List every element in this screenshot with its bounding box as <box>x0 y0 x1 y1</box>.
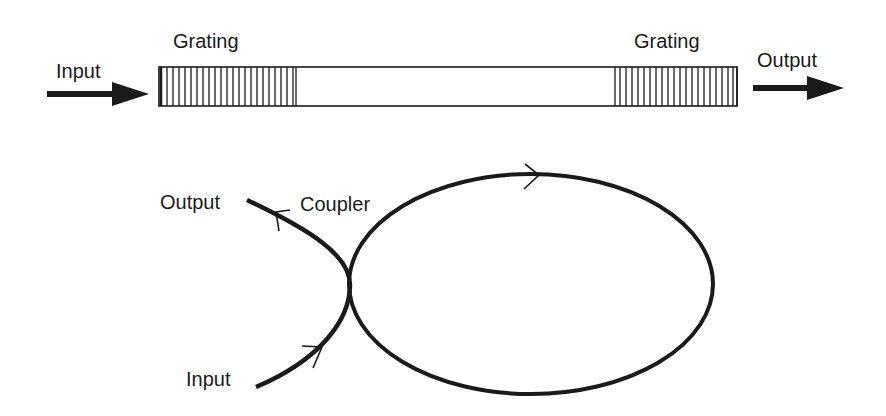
fiber-grating-diagram: Input Grating Grating <box>47 30 844 106</box>
ring-input-label: Input <box>186 368 231 390</box>
ring-direction-arrow-icon <box>524 164 539 189</box>
grating-left <box>161 67 296 106</box>
coupler-label: Coupler <box>300 193 370 215</box>
input-arrow-icon <box>47 82 149 106</box>
diagram-canvas: Input Grating Grating <box>0 0 886 416</box>
grating-left-label: Grating <box>173 30 239 52</box>
bus-waveguide <box>247 200 350 387</box>
ring-loop <box>349 174 713 394</box>
ring-output-label: Output <box>160 191 220 213</box>
top-input-label: Input <box>56 60 101 82</box>
top-output-label: Output <box>757 49 817 71</box>
ring-resonator-diagram: Output Coupler Input <box>160 164 713 394</box>
grating-right <box>615 67 737 106</box>
grating-right-label: Grating <box>634 30 700 52</box>
output-arrow-icon <box>753 76 844 100</box>
